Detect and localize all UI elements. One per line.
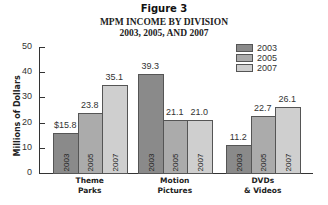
value-label: 39.3 <box>135 61 165 71</box>
y-tick-label: 20 <box>14 117 32 127</box>
bar-year-label: 2003 <box>234 154 243 172</box>
legend-item-2003: 2003 <box>236 43 277 53</box>
legend-label: 2005 <box>257 53 277 63</box>
bar-2005-2: 2005 <box>251 116 277 174</box>
y-tick-label: 10 <box>14 142 32 152</box>
legend-item-2005: 2005 <box>236 53 277 63</box>
bar-2005-0: 2005 <box>78 113 104 174</box>
legend-label: 2007 <box>257 63 277 73</box>
bar-year-label: 2003 <box>61 154 70 172</box>
value-label: 35.1 <box>99 72 129 82</box>
y-tick <box>39 97 45 98</box>
bar-year-label: 2003 <box>146 154 155 172</box>
bar-2007-2: 2007 <box>275 107 301 174</box>
value-label: $15.8 <box>50 120 80 130</box>
y-tick-label: 30 <box>14 91 32 101</box>
bar-2003-0: 2003 <box>53 133 79 174</box>
y-tick-label: 50 <box>14 41 32 51</box>
chart-title: MPM INCOME BY DIVISION 2003, 2005, AND 2… <box>0 17 328 39</box>
y-tick <box>39 72 45 73</box>
y-tick <box>39 123 45 124</box>
bar-2003-1: 2003 <box>138 74 164 174</box>
category-label-line2: & Videos <box>233 186 293 196</box>
legend-label: 2003 <box>257 43 277 53</box>
figure-label: Figure 3 <box>0 3 328 14</box>
bar-year-label: 2007 <box>283 154 292 172</box>
category-label-line2: Parks <box>60 186 120 196</box>
y-axis <box>39 47 40 174</box>
category-label: MotionPictures <box>145 176 205 196</box>
value-label: 21.0 <box>184 107 214 117</box>
bar-2005-1: 2005 <box>163 120 189 174</box>
category-label-line1: DVDs <box>233 176 293 186</box>
y-tick <box>39 47 45 48</box>
value-label: 23.8 <box>75 100 105 110</box>
bar-year-label: 2005 <box>86 154 95 172</box>
legend: 200320052007 <box>236 43 277 73</box>
value-label: 22.7 <box>248 103 278 113</box>
y-tick <box>39 173 45 174</box>
legend-swatch <box>236 64 253 72</box>
legend-swatch <box>236 54 253 62</box>
bar-2007-1: 2007 <box>187 120 213 174</box>
y-tick <box>39 148 45 149</box>
bar-year-label: 2005 <box>259 154 268 172</box>
category-label: ThemeParks <box>60 176 120 196</box>
value-label: 26.1 <box>272 94 302 104</box>
bar-year-label: 2007 <box>195 154 204 172</box>
legend-swatch <box>236 44 253 52</box>
value-label: 11.2 <box>223 132 253 142</box>
category-label: DVDs& Videos <box>233 176 293 196</box>
category-label-line2: Pictures <box>145 186 205 196</box>
chart-title-line2: 2003, 2005, AND 2007 <box>0 28 328 39</box>
bar-year-label: 2007 <box>110 154 119 172</box>
category-label-line1: Theme <box>60 176 120 186</box>
category-label-line1: Motion <box>145 176 205 186</box>
bar-year-label: 2005 <box>171 154 180 172</box>
chart-title-line1: MPM INCOME BY DIVISION <box>0 17 328 28</box>
bar-2003-2: 2003 <box>226 145 252 174</box>
y-tick-label: 0 <box>14 167 32 177</box>
bar-2007-0: 2007 <box>102 85 128 174</box>
y-tick-label: 40 <box>14 66 32 76</box>
legend-item-2007: 2007 <box>236 63 277 73</box>
